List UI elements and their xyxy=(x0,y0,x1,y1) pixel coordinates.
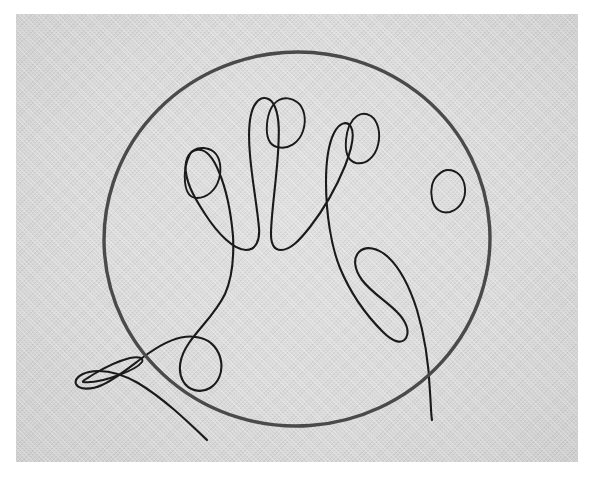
middle-finger-nail-path xyxy=(267,98,305,147)
little-finger-nail-path xyxy=(431,170,465,212)
ring-finger-nail-path xyxy=(346,114,379,164)
hand-drawn-circle xyxy=(91,39,502,439)
hand-drawing-group xyxy=(76,98,465,440)
index-finger-nail-path xyxy=(185,148,221,198)
drawing-canvas xyxy=(0,0,596,477)
line-drawing xyxy=(0,0,596,477)
